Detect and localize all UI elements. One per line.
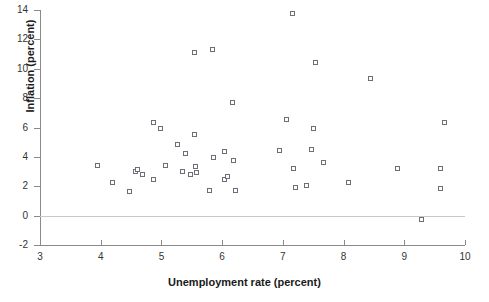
- data-point: [309, 147, 314, 152]
- x-axis-tick: [465, 240, 466, 245]
- data-point: [230, 100, 235, 105]
- y-axis-tick: [34, 186, 40, 187]
- data-point: [210, 47, 215, 52]
- y-axis-tick-label: 12: [2, 34, 28, 44]
- data-point: [419, 217, 424, 222]
- x-axis-tick: [101, 240, 102, 245]
- x-axis-tick-label: 4: [89, 252, 113, 262]
- y-axis-tick-label: 14: [2, 5, 28, 15]
- data-point: [194, 170, 199, 175]
- x-axis-tick: [404, 240, 405, 245]
- y-axis-tick: [34, 39, 40, 40]
- data-point: [284, 117, 289, 122]
- x-axis-tick: [222, 240, 223, 245]
- x-axis-tick-label: 5: [149, 252, 173, 262]
- data-point: [293, 185, 298, 190]
- y-axis-tick: [34, 69, 40, 70]
- data-point: [211, 155, 216, 160]
- y-axis-tick-label: 8: [2, 93, 28, 103]
- x-axis-tick-label: 9: [392, 252, 416, 262]
- data-point: [311, 126, 316, 131]
- data-point: [395, 166, 400, 171]
- y-axis-tick: [34, 216, 40, 217]
- y-axis-tick: [34, 98, 40, 99]
- data-point: [207, 188, 212, 193]
- data-point: [183, 151, 188, 156]
- data-point: [291, 166, 296, 171]
- data-point: [231, 158, 236, 163]
- y-axis-tick: [34, 128, 40, 129]
- data-point: [140, 172, 145, 177]
- data-point: [163, 163, 168, 168]
- data-point: [438, 186, 443, 191]
- x-axis-tick-label: 7: [271, 252, 295, 262]
- x-axis-tick-label: 6: [210, 252, 234, 262]
- data-point: [368, 76, 373, 81]
- data-point: [222, 149, 227, 154]
- data-point: [180, 169, 185, 174]
- y-axis-tick-label: 2: [2, 181, 28, 191]
- y-axis-title: Inflation (percent): [24, 0, 36, 156]
- y-axis-tick-label: 6: [2, 123, 28, 133]
- y-axis-spine: [40, 10, 41, 245]
- y-axis-tick-label: 4: [2, 152, 28, 162]
- x-axis-spine: [40, 245, 465, 246]
- y-axis-tick: [34, 245, 40, 246]
- x-axis-tick: [344, 240, 345, 245]
- data-point: [127, 189, 132, 194]
- y-axis-tick: [34, 157, 40, 158]
- data-point: [321, 160, 326, 165]
- x-axis-tick: [161, 240, 162, 245]
- data-point: [313, 60, 318, 65]
- data-point: [290, 11, 295, 16]
- data-point: [158, 126, 163, 131]
- data-point: [110, 180, 115, 185]
- data-point: [438, 166, 443, 171]
- y-axis-tick: [34, 10, 40, 11]
- data-point: [193, 164, 198, 169]
- x-axis-title: Unemployment rate (percent): [0, 276, 489, 288]
- x-axis-tick: [283, 240, 284, 245]
- x-axis-tick-label: 10: [453, 252, 477, 262]
- data-point: [151, 120, 156, 125]
- data-point: [95, 163, 100, 168]
- x-axis-tick-label: 3: [28, 252, 52, 262]
- data-point: [233, 188, 238, 193]
- y-axis-tick-label: 10: [2, 64, 28, 74]
- y-axis-tick-label: 0: [2, 211, 28, 221]
- data-point: [442, 120, 447, 125]
- data-point: [151, 177, 156, 182]
- data-point: [192, 50, 197, 55]
- data-point: [346, 180, 351, 185]
- scatter-plot-figure: Inflation (percent) Unemployment rate (p…: [0, 0, 489, 302]
- data-point: [277, 148, 282, 153]
- data-point: [192, 132, 197, 137]
- zero-reference-line: [40, 216, 465, 217]
- data-point: [188, 172, 193, 177]
- data-point: [304, 183, 309, 188]
- data-point: [225, 174, 230, 179]
- y-axis-tick-label: -2: [2, 240, 28, 250]
- x-axis-tick-label: 8: [332, 252, 356, 262]
- data-point: [175, 142, 180, 147]
